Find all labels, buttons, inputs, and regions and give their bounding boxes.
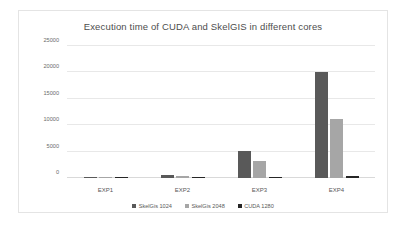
bar[interactable]: [161, 175, 174, 178]
legend-item[interactable]: SkelGis 1024: [132, 203, 172, 209]
legend-swatch-icon: [132, 204, 136, 208]
bar[interactable]: [99, 177, 112, 178]
bar[interactable]: [330, 119, 343, 178]
x-axis-tick-label: EXP1: [98, 187, 113, 193]
x-axis: EXP1EXP2EXP3EXP4: [67, 181, 375, 193]
bar[interactable]: [84, 177, 97, 178]
y-axis-tick-label: 25000: [43, 37, 59, 43]
bar[interactable]: [192, 177, 205, 178]
chart-legend: SkelGis 1024SkelGis 2048CUDA 1280: [19, 203, 387, 209]
x-axis-tick-label: EXP2: [175, 187, 190, 193]
x-axis-tick-label: EXP4: [329, 187, 344, 193]
legend-label: SkelGis 2048: [191, 203, 224, 209]
y-axis-tick-label: 20000: [43, 63, 59, 69]
bar[interactable]: [315, 72, 328, 178]
bar[interactable]: [176, 176, 189, 178]
y-axis-tick-label: 15000: [43, 90, 59, 96]
bar-group-exp1: [67, 46, 144, 178]
legend-label: CUDA 1280: [244, 203, 274, 209]
bar[interactable]: [253, 161, 266, 178]
y-axis-tick-label: 10000: [43, 116, 59, 122]
y-axis-tick-label: 0: [56, 169, 59, 175]
bar[interactable]: [238, 151, 251, 178]
bar-group-exp2: [144, 46, 221, 178]
bar[interactable]: [269, 177, 282, 178]
legend-swatch-icon: [238, 204, 242, 208]
chart-frame: Execution time of CUDA and SkelGIS in di…: [18, 10, 388, 213]
x-axis-tick-label: EXP3: [252, 187, 267, 193]
y-axis-tick-label: 5000: [47, 143, 59, 149]
bar[interactable]: [346, 176, 359, 178]
legend-swatch-icon: [185, 204, 189, 208]
legend-label: SkelGis 1024: [139, 203, 172, 209]
bars-layer: [67, 46, 375, 178]
bar[interactable]: [115, 177, 128, 178]
chart-title: Execution time of CUDA and SkelGIS in di…: [19, 21, 387, 32]
legend-item[interactable]: SkelGis 2048: [185, 203, 225, 209]
legend-item[interactable]: CUDA 1280: [238, 203, 274, 209]
bar-group-exp4: [298, 46, 375, 178]
bar-group-exp3: [221, 46, 298, 178]
y-axis: 0500010000150002000025000: [19, 46, 63, 178]
